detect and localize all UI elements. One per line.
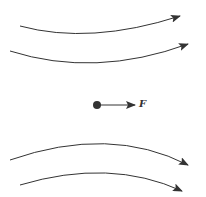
field-line-top-1 xyxy=(20,16,180,34)
particle-dot xyxy=(93,101,101,109)
field-line-bottom-1 xyxy=(10,144,188,165)
field-line-bottom-2 xyxy=(20,173,182,191)
force-label: F xyxy=(139,98,146,109)
field-diagram xyxy=(0,0,206,197)
field-line-top-2 xyxy=(10,44,188,63)
